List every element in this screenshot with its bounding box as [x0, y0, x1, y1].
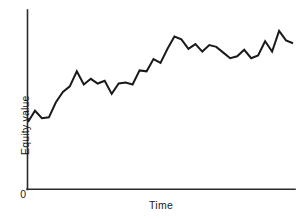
- chart-plot-area: [0, 0, 302, 219]
- y-axis-label: Equity value: [18, 35, 32, 155]
- equity-value-chart-figure: Equity value Time 0: [0, 0, 302, 219]
- chart-background: [0, 0, 302, 219]
- x-axis-label: Time: [27, 199, 295, 211]
- origin-tick-label: 0: [14, 188, 26, 200]
